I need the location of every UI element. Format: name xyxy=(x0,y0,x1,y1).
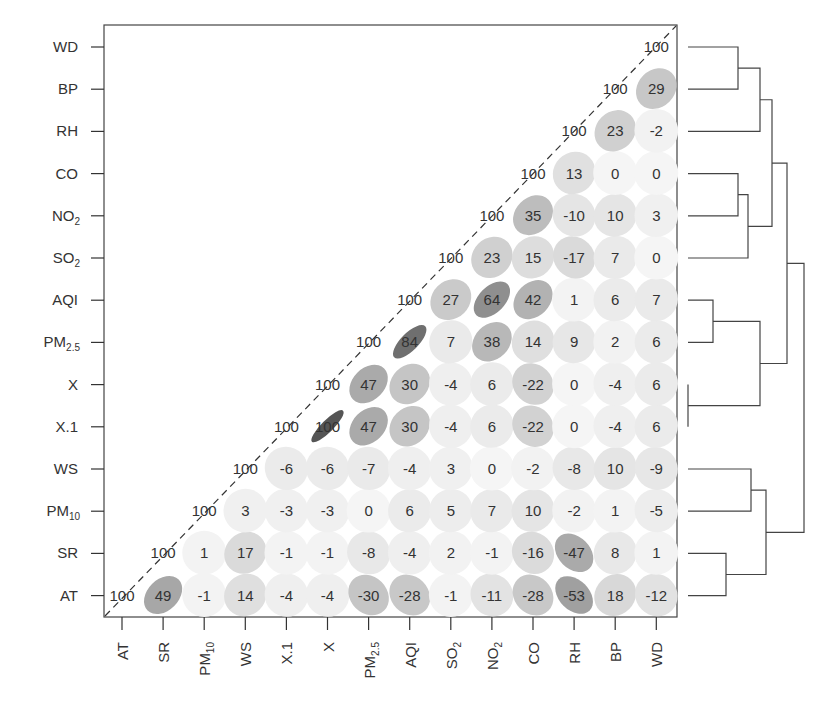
correlation-value: 10 xyxy=(607,460,624,477)
correlation-value: 10 xyxy=(525,502,542,519)
x-tick-label: WD xyxy=(648,642,665,667)
correlation-value: 7 xyxy=(447,333,455,350)
correlation-value: 29 xyxy=(648,80,665,97)
dendrogram-branch xyxy=(688,469,751,511)
correlation-value: 100 xyxy=(644,38,669,55)
y-tick-label: CO xyxy=(56,165,79,182)
x-tick-label: PM10 xyxy=(196,642,216,676)
correlation-value: -4 xyxy=(280,587,293,604)
correlation-value: 0 xyxy=(652,249,660,266)
correlation-value: -3 xyxy=(321,502,334,519)
correlation-value: -47 xyxy=(563,544,585,561)
correlation-value: -9 xyxy=(650,460,663,477)
y-tick-label: SO2 xyxy=(53,249,81,269)
correlation-value: 18 xyxy=(607,587,624,604)
correlation-value: 30 xyxy=(401,376,418,393)
correlation-value: -16 xyxy=(522,544,544,561)
x-tick-label: SR xyxy=(155,642,172,663)
correlation-chart: 10049-114-4-4-30-28-1-11-28-5318-1210011… xyxy=(0,0,836,719)
y-tick-label: RH xyxy=(56,122,78,139)
correlation-value: 5 xyxy=(447,502,455,519)
x-tick-label: SO2 xyxy=(443,642,463,670)
correlation-value: -1 xyxy=(321,544,334,561)
correlation-value: 100 xyxy=(151,544,176,561)
correlation-value: -4 xyxy=(444,418,457,435)
dendrogram-branch xyxy=(760,163,787,363)
correlation-value: -53 xyxy=(563,587,585,604)
correlation-value: 100 xyxy=(274,418,299,435)
correlation-value: -1 xyxy=(198,587,211,604)
correlation-value: 30 xyxy=(401,418,418,435)
dendrogram-branch xyxy=(688,195,748,258)
correlation-value: 100 xyxy=(315,376,340,393)
dendrogram-branch xyxy=(766,263,804,532)
correlation-value: 0 xyxy=(570,376,578,393)
correlation-value: -22 xyxy=(522,376,544,393)
y-tick-label: PM10 xyxy=(46,502,80,522)
dendrogram-branch xyxy=(726,490,766,574)
correlation-value: 7 xyxy=(611,249,619,266)
correlation-value: 49 xyxy=(155,587,172,604)
correlation-value: 0 xyxy=(652,165,660,182)
correlation-value: 0 xyxy=(570,418,578,435)
correlation-value: 100 xyxy=(192,502,217,519)
correlation-value: -5 xyxy=(650,502,663,519)
correlation-value: -28 xyxy=(399,587,421,604)
correlation-value: 38 xyxy=(484,333,501,350)
correlation-value: 100 xyxy=(438,249,463,266)
y-tick-label: NO2 xyxy=(52,207,81,227)
correlation-value: 100 xyxy=(562,122,587,139)
x-tick-label: PM2.5 xyxy=(361,642,381,679)
correlation-value: 100 xyxy=(603,80,628,97)
correlation-value: -2 xyxy=(567,502,580,519)
y-tick-label: SR xyxy=(57,544,78,561)
correlation-value: -6 xyxy=(280,460,293,477)
correlation-value: -12 xyxy=(645,587,667,604)
correlation-value: 3 xyxy=(447,460,455,477)
correlation-value: -4 xyxy=(609,418,622,435)
correlation-value: 47 xyxy=(360,418,377,435)
correlation-value: 23 xyxy=(607,122,624,139)
correlation-value: 100 xyxy=(520,165,545,182)
correlation-value: -4 xyxy=(403,544,416,561)
x-tick-label: CO xyxy=(525,642,542,665)
correlation-value: 100 xyxy=(397,291,422,308)
correlation-value: -17 xyxy=(563,249,585,266)
correlation-value: 7 xyxy=(488,502,496,519)
correlation-value: -6 xyxy=(321,460,334,477)
correlation-value: 35 xyxy=(525,207,542,224)
y-tick-label: AT xyxy=(60,587,78,604)
correlation-value: 0 xyxy=(611,165,619,182)
correlation-value: -3 xyxy=(280,502,293,519)
correlation-value: 14 xyxy=(237,587,254,604)
x-tick-label: WS xyxy=(237,642,254,666)
correlation-value: 6 xyxy=(406,502,414,519)
correlation-value: 6 xyxy=(611,291,619,308)
dendrogram-branch xyxy=(688,47,738,89)
correlation-value: 13 xyxy=(566,165,583,182)
x-tick-label: AT xyxy=(114,642,131,660)
dendrogram-branch xyxy=(688,300,713,342)
correlation-value: 15 xyxy=(525,249,542,266)
correlation-value: 6 xyxy=(488,376,496,393)
y-tick-label: X xyxy=(68,376,78,393)
correlation-value: -4 xyxy=(609,376,622,393)
correlation-value: -2 xyxy=(650,122,663,139)
correlation-value: -10 xyxy=(563,207,585,224)
y-tick-label: WD xyxy=(53,38,78,55)
correlation-value: 23 xyxy=(484,249,501,266)
correlation-value: 3 xyxy=(241,502,249,519)
correlation-value: -30 xyxy=(358,587,380,604)
correlation-value: 27 xyxy=(442,291,459,308)
correlation-value: -22 xyxy=(522,418,544,435)
y-tick-label: BP xyxy=(58,80,78,97)
x-tick-label: NO2 xyxy=(484,642,504,671)
correlation-value: -28 xyxy=(522,587,544,604)
dendrogram-branch xyxy=(688,68,760,131)
correlation-value: 6 xyxy=(652,376,660,393)
x-tick-label: AQI xyxy=(402,642,419,668)
correlation-value: 10 xyxy=(607,207,624,224)
y-tick-label: WS xyxy=(54,460,78,477)
correlation-value: 6 xyxy=(652,418,660,435)
correlation-value: 1 xyxy=(200,544,208,561)
